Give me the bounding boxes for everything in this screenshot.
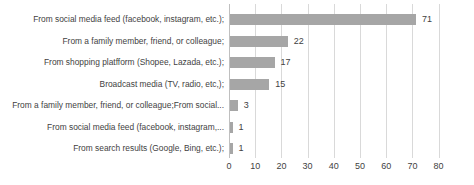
bar: [230, 36, 288, 47]
bar-chart: From social media feed (facebook, instag…: [0, 0, 474, 185]
x-tick-label: 50: [355, 161, 365, 171]
x-tick-label: 40: [329, 161, 339, 171]
bar: [230, 57, 275, 68]
gridline: [412, 4, 413, 158]
category-label: From a family member, friend, or colleag…: [0, 100, 224, 111]
x-tick-label: 20: [276, 161, 286, 171]
value-label: 71: [422, 14, 432, 25]
category-label: From shopping platfform (Shopee, Lazada,…: [0, 57, 224, 68]
bar: [230, 143, 233, 154]
gridline: [360, 4, 361, 158]
x-tick-label: 60: [381, 161, 391, 171]
gridline: [308, 4, 309, 158]
value-label: 15: [275, 79, 285, 90]
value-label: 17: [281, 57, 291, 68]
category-label: Broadcast media (TV, radio, etc,);: [0, 79, 224, 90]
bar: [230, 14, 416, 25]
bar: [230, 100, 238, 111]
gridline: [386, 4, 387, 158]
gridline: [334, 4, 335, 158]
category-label: From a family member, friend, or colleag…: [0, 36, 224, 47]
x-tick-label: 10: [250, 161, 260, 171]
category-label: From search results (Google, Bing, etc.)…: [0, 143, 224, 154]
bar: [230, 122, 233, 133]
x-tick-label: 0: [226, 161, 231, 171]
x-tick-label: 30: [303, 161, 313, 171]
x-tick-label: 80: [434, 161, 444, 171]
value-label: 1: [239, 122, 244, 133]
x-tick-label: 70: [407, 161, 417, 171]
category-label: From social media feed (facebook, instag…: [0, 122, 224, 133]
value-label: 22: [294, 36, 304, 47]
bar: [230, 79, 269, 90]
value-label: 1: [239, 143, 244, 154]
category-label: From social media feed (facebook, instag…: [0, 14, 224, 25]
value-label: 3: [244, 100, 249, 111]
gridline: [439, 4, 440, 158]
